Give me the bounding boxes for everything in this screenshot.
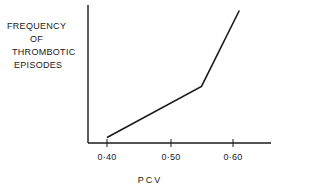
- x-axis-label: PCV: [138, 175, 163, 185]
- data-line: [107, 11, 239, 138]
- x-tick-label-0-60: 0·60: [223, 152, 242, 162]
- x-tick-label-0-50: 0·50: [161, 152, 180, 162]
- x-tick-label-0-40: 0·40: [97, 152, 116, 162]
